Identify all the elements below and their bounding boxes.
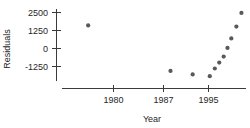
x-axis-title: Year	[143, 114, 161, 124]
x-tick-label: 1980	[103, 95, 123, 105]
data-point	[225, 46, 229, 50]
y-axis-tick-labels: 2500 1250 0 -1250	[25, 8, 48, 72]
data-point	[217, 61, 221, 65]
residuals-scatter-chart: 2500 1250 0 -1250 Residuals 1980 1987 19…	[0, 0, 250, 128]
x-tick-label: 1987	[153, 95, 173, 105]
data-point	[239, 11, 243, 15]
data-point	[168, 69, 172, 73]
data-point	[234, 25, 238, 29]
data-point	[191, 72, 195, 76]
data-point	[213, 66, 217, 70]
x-axis-tick-labels: 1980 1987 1995	[103, 95, 218, 105]
data-point	[222, 54, 226, 58]
y-axis-title: Residuals	[2, 29, 12, 69]
x-tick-label: 1995	[198, 95, 218, 105]
data-point	[208, 74, 212, 78]
y-tick-label: 1250	[28, 26, 48, 36]
data-point	[86, 23, 90, 27]
data-point-group	[86, 11, 243, 78]
y-tick-label: 2500	[28, 8, 48, 18]
data-point	[229, 36, 233, 40]
y-tick-label: 0	[43, 44, 48, 54]
y-tick-label: -1250	[25, 62, 48, 72]
plot-area: 2500 1250 0 -1250 Residuals 1980 1987 19…	[0, 0, 250, 128]
